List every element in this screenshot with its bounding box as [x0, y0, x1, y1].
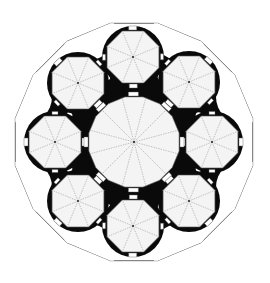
- central-rotunda: [84, 92, 184, 192]
- doorway: [129, 26, 137, 30]
- chapel-bottom: [102, 195, 164, 257]
- chapel-upper-right: [158, 51, 220, 113]
- doorway: [129, 84, 137, 88]
- doorway: [129, 253, 137, 257]
- chapel-upper-left: [47, 52, 109, 114]
- chapel-right: [181, 111, 243, 173]
- chapel-lower-left: [47, 170, 109, 232]
- center-point: [133, 141, 135, 143]
- floor-plan: [0, 0, 270, 283]
- doorway: [129, 195, 137, 199]
- doorway: [239, 138, 243, 146]
- doorway: [24, 138, 28, 146]
- chapel-left: [24, 111, 86, 173]
- chapel-top: [102, 26, 164, 88]
